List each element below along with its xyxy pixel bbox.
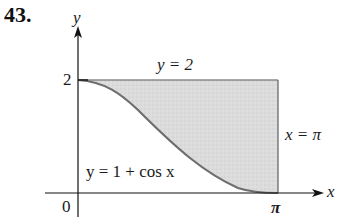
graph	[0, 0, 346, 217]
x-axis-label: x	[327, 182, 335, 202]
label-x-equals-pi-text: x = π	[285, 125, 321, 144]
label-y-equals-2: y = 2	[157, 55, 193, 75]
label-curve: y = 1 + cos x	[86, 162, 175, 182]
label-x-equals-pi: x = π	[285, 125, 321, 145]
x-tick-label: π	[271, 198, 280, 217]
label-curve-text: y = 1 + cos x	[86, 162, 175, 181]
y-axis-label: y	[73, 8, 81, 28]
y-tick-label: 2	[63, 70, 72, 90]
label-y-equals-2-text: y = 2	[157, 55, 193, 74]
figure: 43. y 2 0 π x y = 2 x = π	[0, 0, 346, 217]
origin-label: 0	[62, 197, 71, 217]
